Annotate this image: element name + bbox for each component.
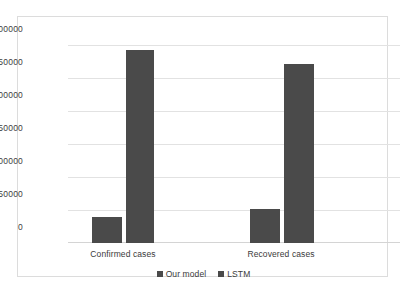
y-axis-tick-label: 100000 bbox=[0, 156, 23, 166]
gridline bbox=[68, 45, 400, 46]
gridline bbox=[68, 78, 400, 79]
bar-confirmed-our-model bbox=[92, 217, 122, 243]
x-axis-tick-label-confirmed: Confirmed cases bbox=[90, 249, 155, 259]
gridline bbox=[68, 144, 400, 145]
legend-label-our-model: Our model bbox=[166, 269, 207, 279]
bar-recovered-our-model bbox=[250, 209, 280, 243]
legend-label-lstm: LSTM bbox=[227, 269, 250, 279]
chart-figure: 300000 250000 200000 150000 100000 50000… bbox=[0, 0, 410, 292]
y-axis-tick-label: 300000 bbox=[0, 24, 23, 34]
gridline bbox=[68, 111, 400, 112]
x-axis-tick-label-recovered: Recovered cases bbox=[247, 249, 314, 259]
gridline bbox=[68, 210, 400, 211]
legend-entry-our-model: Our model bbox=[157, 269, 207, 279]
legend-swatch-icon bbox=[218, 271, 224, 277]
chart-legend: Our model LSTM bbox=[18, 269, 389, 279]
chart-frame: 300000 250000 200000 150000 100000 50000… bbox=[17, 16, 388, 277]
bar-confirmed-lstm bbox=[126, 50, 154, 243]
y-axis-tick-label: 250000 bbox=[0, 57, 23, 67]
y-axis-tick-label: 50000 bbox=[0, 189, 23, 199]
plot-area bbox=[68, 45, 400, 243]
y-axis-tick-label: 150000 bbox=[0, 123, 23, 133]
y-axis-tick-label: 0 bbox=[0, 222, 23, 232]
bar-recovered-lstm bbox=[284, 64, 314, 243]
legend-swatch-icon bbox=[157, 271, 163, 277]
legend-entry-lstm: LSTM bbox=[218, 269, 250, 279]
y-axis-tick-label: 200000 bbox=[0, 90, 23, 100]
gridline bbox=[68, 177, 400, 178]
